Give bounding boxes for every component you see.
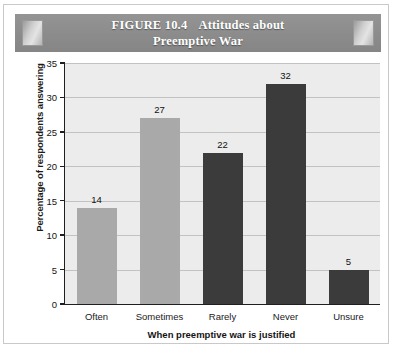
figure-title: FIGURE 10.4Attitudes about Preemptive Wa… bbox=[55, 17, 341, 49]
bar-group: 22Rarely bbox=[191, 63, 254, 304]
figure-number: FIGURE 10.4 bbox=[112, 18, 188, 32]
x-axis-tick-label-rarely: Rarely bbox=[209, 311, 236, 322]
bar-value-label: 27 bbox=[154, 104, 165, 115]
y-axis-tick-label: 30 bbox=[46, 92, 57, 103]
bar-value-label: 14 bbox=[91, 194, 102, 205]
y-axis-tick-label: 35 bbox=[46, 58, 57, 69]
figure-title-line-1: Attitudes about bbox=[198, 18, 284, 32]
y-axis-title: Percentage of respondents answering bbox=[34, 43, 45, 253]
x-axis-title: When preemptive war is justified bbox=[64, 329, 379, 340]
figure-card: FIGURE 10.4Attitudes about Preemptive Wa… bbox=[3, 4, 389, 344]
bar-value-label: 32 bbox=[280, 70, 291, 81]
y-axis-tick-label: 10 bbox=[46, 230, 57, 241]
y-axis-tick-label: 15 bbox=[46, 195, 57, 206]
y-axis-tick-label: 0 bbox=[52, 299, 57, 310]
bar-group: 27Sometimes bbox=[128, 63, 191, 304]
figure-header-band: FIGURE 10.4Attitudes about Preemptive Wa… bbox=[15, 14, 381, 52]
y-axis-tick-label: 25 bbox=[46, 126, 57, 137]
bar-group: 32Never bbox=[254, 63, 317, 304]
bar-rarely[interactable]: 22 bbox=[203, 153, 243, 304]
bar-never[interactable]: 32 bbox=[266, 84, 306, 304]
x-axis-tick-label-never: Never bbox=[273, 311, 298, 322]
bar-unsure[interactable]: 5 bbox=[329, 270, 369, 304]
header-decoration-square-right bbox=[353, 20, 374, 46]
x-axis-tick-label-unsure: Unsure bbox=[333, 311, 364, 322]
bar-group: 5Unsure bbox=[317, 63, 380, 304]
y-axis-tick-label: 20 bbox=[46, 161, 57, 172]
chart-region: Percentage of respondents answering 0510… bbox=[4, 57, 390, 345]
y-axis-tick-label: 5 bbox=[52, 264, 57, 275]
figure-title-line-2: Preemptive War bbox=[55, 33, 341, 49]
x-axis-tick-label-often: Often bbox=[85, 311, 108, 322]
bar-group: 14Often bbox=[65, 63, 128, 304]
plot-area: 0510152025303514Often27Sometimes22Rarely… bbox=[64, 63, 380, 305]
bar-value-label: 22 bbox=[217, 139, 228, 150]
bar-often[interactable]: 14 bbox=[77, 208, 117, 304]
bar-value-label: 5 bbox=[346, 256, 351, 267]
x-axis-tick-label-sometimes: Sometimes bbox=[136, 311, 184, 322]
bar-sometimes[interactable]: 27 bbox=[140, 118, 180, 304]
